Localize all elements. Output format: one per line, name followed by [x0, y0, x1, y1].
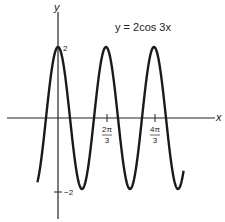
x-axis-label: x — [215, 111, 222, 123]
y-axis-label: y — [53, 1, 61, 13]
x-tick-label-4pi-den: 3 — [153, 136, 158, 145]
x-tick-label-2pi-den: 3 — [105, 136, 110, 145]
y-tick-label-neg2: −2 — [64, 188, 74, 197]
plot-area: y x y = 2cos 3x 2 −2 2π 3 4π 3 — [0, 0, 225, 222]
x-tick-label-2pi-num: 2π — [102, 125, 112, 134]
cosine-graph: y x y = 2cos 3x 2 −2 2π 3 4π 3 — [0, 0, 225, 222]
y-tick-label-2: 2 — [63, 44, 68, 53]
equation-label: y = 2cos 3x — [115, 21, 171, 33]
x-tick-label-4pi-num: 4π — [150, 125, 160, 134]
